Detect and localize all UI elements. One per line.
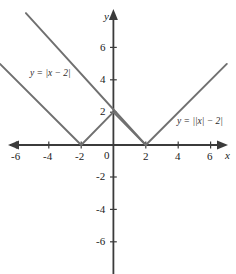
x-tick-label--2: -2 — [75, 151, 84, 162]
y-tick-label-2: 2 — [100, 106, 106, 117]
x-tick-label--4: -4 — [43, 151, 52, 162]
y-axis-label: y — [104, 11, 109, 22]
graph-figure: -6 -4 -2 0 2 4 6 6 4 2 -2 -4 -6 y x y = … — [0, 0, 236, 274]
x-tick-label-0: 0 — [104, 150, 110, 161]
y-axis-top-arrowhead — [109, 9, 118, 20]
curve-abs-x-minus-2 — [26, 13, 146, 145]
x-tick-label-6: 6 — [207, 151, 213, 162]
y-tick-label--6: -6 — [96, 236, 105, 247]
x-tick-label--6: -6 — [11, 151, 20, 162]
curve-label-abs-abs-x-minus-2: y = ||x| − 2| — [177, 117, 223, 127]
y-tick-label-4: 4 — [100, 74, 106, 85]
y-tick-label--4: -4 — [96, 204, 105, 215]
x-tick-label-2: 2 — [143, 151, 149, 162]
x-axis-label: x — [225, 150, 230, 161]
coordinate-plane — [0, 0, 236, 274]
curve-label-abs-x-minus-2: y = |x − 2| — [30, 69, 71, 79]
y-tick-label-6: 6 — [100, 42, 106, 53]
x-axis-left-arrowhead — [8, 141, 19, 150]
y-tick-label--2: -2 — [96, 171, 105, 182]
x-tick-label-4: 4 — [175, 151, 181, 162]
y-axis — [109, 9, 118, 274]
x-axis — [8, 141, 228, 150]
